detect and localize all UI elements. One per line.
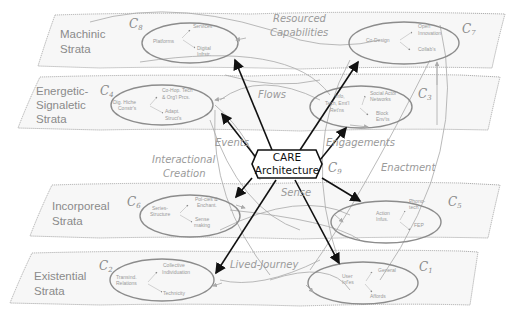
- node-individuation: Individuation: [162, 269, 190, 275]
- node-infes: Inf'es: [342, 279, 354, 285]
- node-open: Open: [418, 23, 430, 29]
- strata-label-energetic-3: Strata: [36, 113, 67, 125]
- node-tech-emtl: Tech, Emt'l: [325, 100, 349, 106]
- node-collabs: Collab's: [418, 46, 436, 52]
- flow-label-lived-journey: Lived-Journey: [230, 259, 299, 270]
- care-label-2: Architecture: [255, 164, 319, 176]
- flow-label-sense: Sense: [281, 187, 311, 198]
- node-general: General: [378, 267, 396, 273]
- flow-label-capabilities: Capabilities: [270, 27, 328, 38]
- flow-label-resourced: Resourced: [273, 13, 327, 24]
- flow-label-engagements: Engagements: [326, 137, 395, 148]
- node-infrstr: Infrstr.: [197, 51, 211, 57]
- node-adapt: Adapt.: [165, 108, 179, 114]
- strata-label-incorporeal-1: Incorporeal: [52, 200, 110, 212]
- c9-label: C9: [328, 161, 342, 176]
- care-center-node: CARE Architecture: [252, 150, 322, 178]
- strata-label-energetic-2: Signaletic: [36, 99, 86, 111]
- node-making: making: [194, 222, 210, 228]
- flow-label-enactment: Enactment: [381, 162, 436, 173]
- node-co-design: Co-Design: [366, 37, 390, 43]
- node-structure: Structure: [150, 211, 171, 217]
- node-networks: Networks: [370, 96, 391, 102]
- flow-label-creation: Creation: [163, 168, 206, 179]
- node-org-prcs: & Org'l Prcs.: [162, 94, 190, 100]
- node-platforms: Platforms: [153, 38, 175, 44]
- flow-label-flows: Flows: [258, 89, 286, 100]
- node-innovation: Innovation: [418, 30, 441, 36]
- node-services: Services: [193, 23, 213, 29]
- node-envts: Env'ts: [376, 116, 390, 122]
- node-retns: Ret'ns: [330, 107, 345, 113]
- node-info: Info,: [335, 93, 345, 99]
- node-co-hop-tech: Co-Hop. Tech: [162, 87, 193, 93]
- node-technicity: Technicity: [163, 290, 185, 296]
- node-collective: Collective: [163, 262, 185, 268]
- node-relations: Relations: [116, 280, 137, 286]
- node-infus: Infus.: [376, 216, 388, 222]
- strata-label-incorporeal-2: Strata: [52, 215, 83, 227]
- node-structs: Struct's: [165, 115, 182, 121]
- node-enchant: Enchant.: [197, 202, 217, 208]
- strata-label-machinic-1: Machinic: [60, 28, 106, 40]
- node-fep: FEP: [414, 222, 424, 228]
- care-label-1: CARE: [273, 151, 301, 163]
- strata-label-existential-1: Existential: [34, 270, 86, 282]
- node-affords: Affords: [370, 293, 386, 299]
- node-tech: tech: [409, 204, 419, 210]
- strata-label-energetic-1: Energetic-: [36, 85, 89, 97]
- flow-label-interactional: Interactional: [152, 154, 215, 165]
- strata-label-machinic-2: Strata: [60, 43, 91, 55]
- care-architecture-diagram: Machinic Strata Energetic- Signaletic St…: [0, 0, 519, 321]
- node-constrs: Constr's: [118, 105, 137, 111]
- flow-label-events: Events: [215, 137, 249, 148]
- strata-label-existential-2: Strata: [34, 285, 65, 297]
